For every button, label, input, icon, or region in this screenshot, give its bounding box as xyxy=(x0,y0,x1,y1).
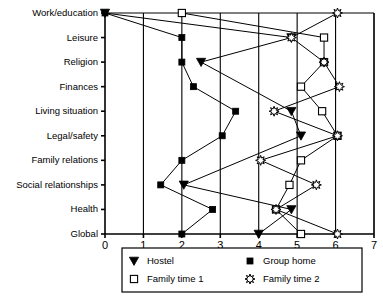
y-axis-tick-label: Family relations xyxy=(31,154,98,165)
axes xyxy=(105,13,374,234)
series-line-1 xyxy=(105,13,236,234)
data-point xyxy=(179,59,185,65)
data-point xyxy=(287,107,296,115)
x-axis-tick-label: 7 xyxy=(371,239,377,251)
legend-label: Hostel xyxy=(147,255,174,266)
plot-frame xyxy=(105,13,374,234)
data-point xyxy=(178,9,185,16)
series-markers-0 xyxy=(100,9,305,238)
data-point xyxy=(287,206,296,214)
data-point xyxy=(271,204,281,214)
series-markers-2 xyxy=(178,9,341,237)
data-point xyxy=(297,157,304,164)
data-point xyxy=(179,231,185,237)
data-point xyxy=(319,57,329,67)
x-axis-tick-label: 0 xyxy=(102,239,108,251)
y-axis-labels: Work/educationLeisureReligionFinancesLiv… xyxy=(16,7,105,239)
series-markers-1 xyxy=(102,10,239,237)
legend-marker xyxy=(130,275,137,282)
data-point xyxy=(269,106,279,116)
data-point xyxy=(320,34,327,41)
data-point xyxy=(286,33,296,43)
series-markers xyxy=(100,8,344,239)
y-axis-tick-label: Work/education xyxy=(32,7,98,18)
data-point xyxy=(332,131,342,141)
legend-label: Family time 2 xyxy=(263,273,319,284)
series-line-3 xyxy=(261,13,340,234)
data-point xyxy=(334,82,344,92)
data-point xyxy=(286,181,293,188)
data-point xyxy=(102,10,108,16)
legend-marker xyxy=(247,258,253,264)
data-point xyxy=(297,230,304,237)
y-axis-tick-label: Leisure xyxy=(67,32,98,43)
data-point xyxy=(319,108,326,115)
data-point xyxy=(332,229,342,239)
data-point xyxy=(297,83,304,90)
y-axis-tick-label: Health xyxy=(71,203,98,214)
chart-container: Work/educationLeisureReligionFinancesLiv… xyxy=(0,0,383,300)
legend-label: Group home xyxy=(263,255,316,266)
y-axis-tick-label: Legal/safety xyxy=(47,130,98,141)
data-point xyxy=(219,133,225,139)
data-point xyxy=(311,180,321,190)
data-point xyxy=(179,157,185,163)
series-line-0 xyxy=(105,13,301,234)
horizontal-line-chart: Work/educationLeisureReligionFinancesLiv… xyxy=(0,0,383,300)
data-point xyxy=(296,132,305,140)
data-point xyxy=(233,108,239,114)
data-point xyxy=(210,206,216,212)
y-axis-tick-label: Global xyxy=(71,228,98,239)
data-point xyxy=(158,182,164,188)
y-axis-tick-label: Religion xyxy=(64,56,98,67)
data-point xyxy=(332,8,342,18)
series-lines xyxy=(105,13,339,234)
y-axis-tick-label: Living situation xyxy=(35,105,98,116)
data-point xyxy=(196,58,205,66)
data-point xyxy=(256,155,266,165)
data-point xyxy=(179,35,185,41)
data-point xyxy=(190,84,196,90)
legend: HostelGroup homeFamily time 1Family time… xyxy=(122,248,362,292)
legend-label: Family time 1 xyxy=(147,273,203,284)
y-axis-tick-label: Social relationships xyxy=(16,179,98,190)
y-axis-tick-label: Finances xyxy=(59,81,98,92)
legend-marker xyxy=(245,274,255,284)
